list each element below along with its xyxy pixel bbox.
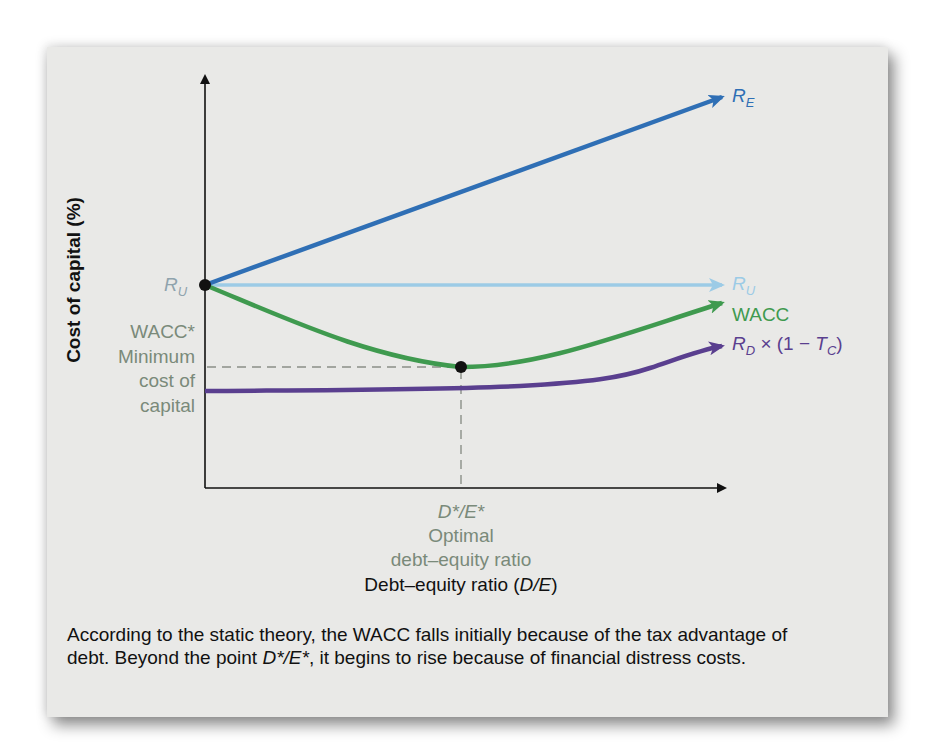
optimal-ratio-symbol: D*/E* [391, 500, 532, 524]
x-axis-label-italic: D/E [520, 574, 552, 595]
rd-label-main: R [732, 333, 746, 354]
rd-label-end: ) [836, 333, 842, 354]
re-label-main: R [732, 85, 746, 106]
x-axis-label-suffix: ) [551, 574, 557, 595]
ru-point-label-main: R [164, 274, 178, 295]
wacc-min-note-line: Minimum [118, 345, 195, 370]
wacc-label: WACC [732, 304, 789, 326]
optimal-ratio-line: Optimal [391, 524, 532, 548]
ru-label-sub: U [746, 283, 755, 298]
re-label-sub: E [746, 95, 755, 110]
rd-label: RD × (1 − TC) [732, 333, 843, 358]
wacc-curve [205, 285, 722, 367]
wacc-min-note-line: capital [118, 394, 195, 419]
x-axis-label: Debt–equity ratio (D/E) [364, 574, 557, 596]
ru-point-label-sub: U [178, 284, 187, 299]
optimal-ratio-note: D*/E* Optimal debt–equity ratio [391, 500, 532, 572]
x-axis-label-prefix: Debt–equity ratio ( [364, 574, 519, 595]
caption-text: , it begins to rise because of financial… [309, 647, 746, 668]
ru-label: RU [732, 273, 755, 298]
rd-label-rest: × (1 − [755, 333, 815, 354]
figure-caption: According to the static theory, the WACC… [67, 623, 827, 669]
wacc-min-note-line: cost of [118, 369, 195, 394]
wacc-min-point [455, 361, 467, 373]
ru-point-label: RU [164, 273, 187, 304]
rd-label-sub: D [746, 343, 755, 358]
rd-label-tc-sub: C [827, 343, 836, 358]
ru-label-main: R [732, 273, 746, 294]
caption-italic: D*/E* [262, 647, 308, 668]
wacc-min-note: WACC* Minimum cost of capital [118, 320, 195, 418]
optimal-ratio-line: debt–equity ratio [391, 548, 532, 572]
ru-point [199, 279, 211, 291]
re-label: RE [732, 85, 754, 110]
rd-label-tc: T [815, 333, 827, 354]
re-line [205, 97, 722, 285]
y-axis-label: Cost of capital (%) [63, 197, 85, 363]
wacc-min-note-line: WACC* [118, 320, 195, 345]
